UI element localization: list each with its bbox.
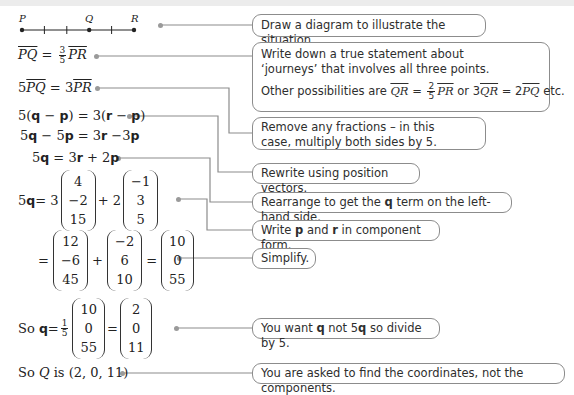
text: So bbox=[18, 321, 35, 336]
step-7: = 12 −6 45 + −2 6 10 = 10 0 55 bbox=[38, 230, 196, 291]
note-true-statement: Write down a true statement about ‘journ… bbox=[252, 42, 550, 112]
vector-p: p bbox=[131, 128, 140, 143]
fraction: 25 bbox=[427, 82, 435, 101]
vector-q: q bbox=[316, 321, 324, 335]
connector-4 bbox=[129, 116, 252, 172]
text: is (2, 0, 11) bbox=[50, 365, 129, 380]
note-alternatives: Other possibilities are QR = 25PR or 3QR… bbox=[261, 82, 541, 101]
text: = bbox=[38, 253, 49, 268]
vector-p: p bbox=[110, 150, 119, 165]
vector-q: q bbox=[31, 108, 40, 123]
note-component-form: Write p and r in component form. bbox=[252, 220, 440, 241]
text: Rearrange to get the bbox=[261, 195, 385, 209]
component: 12 bbox=[62, 232, 79, 251]
component: 3 bbox=[136, 191, 144, 210]
note-text: Write down a true statement about ‘journ… bbox=[261, 47, 511, 77]
vector-pr: PR bbox=[437, 84, 453, 98]
note-rearrange: Rearrange to get the q term on the left-… bbox=[252, 192, 512, 213]
component: 15 bbox=[70, 210, 87, 229]
component: −2 bbox=[69, 191, 88, 210]
text: You want bbox=[261, 321, 316, 335]
text: + 2 bbox=[83, 150, 110, 165]
vector-pq: PQ bbox=[18, 47, 37, 62]
note-simplify: Simplify. bbox=[252, 248, 316, 269]
point-r bbox=[132, 28, 136, 32]
text: = bbox=[107, 321, 118, 336]
text: + bbox=[92, 253, 103, 268]
component: 0 bbox=[173, 251, 181, 270]
vector-qr: QR bbox=[480, 84, 498, 98]
connector-6 bbox=[178, 199, 252, 230]
component: 55 bbox=[169, 270, 186, 289]
text: = bbox=[146, 253, 157, 268]
vector-p: p bbox=[131, 108, 140, 123]
vector-p: p bbox=[65, 128, 74, 143]
note-remove-fractions: Remove any fractions – in this case, mul… bbox=[252, 117, 486, 150]
text: 5 bbox=[18, 193, 26, 208]
denominator: 5 bbox=[428, 92, 434, 101]
component: −6 bbox=[61, 251, 80, 270]
vector-qr: QR bbox=[390, 84, 408, 98]
text: − bbox=[40, 108, 59, 123]
note-text: Simplify. bbox=[261, 251, 309, 265]
connector-dot-8 bbox=[174, 326, 179, 331]
label-p: P bbox=[19, 13, 26, 24]
text: = bbox=[48, 321, 59, 336]
column-vector: 12 −6 45 bbox=[53, 230, 88, 291]
vector-q: q bbox=[28, 128, 37, 143]
note-text: Remove any fractions – in this case, mul… bbox=[261, 120, 461, 150]
vector-q: q bbox=[26, 193, 35, 208]
component: −1 bbox=[131, 172, 150, 191]
label-r: R bbox=[131, 13, 139, 24]
column-vector: 4 −2 15 bbox=[61, 170, 96, 231]
connector-dot-6 bbox=[176, 197, 181, 202]
step-4: 5q − 5p = 3r −3p bbox=[20, 128, 139, 143]
component: 0 bbox=[85, 319, 93, 338]
step-3: 5(q − p) = 3(r − p) bbox=[18, 108, 145, 123]
text: ) bbox=[140, 108, 145, 123]
vector-q: q bbox=[385, 195, 393, 209]
fraction: 35 bbox=[59, 46, 67, 65]
component: 55 bbox=[80, 338, 97, 357]
text: or 3 bbox=[454, 84, 480, 98]
text: = 3 bbox=[74, 128, 101, 143]
component: 0 bbox=[132, 319, 140, 338]
text: = 3 bbox=[35, 193, 58, 208]
component: 10 bbox=[116, 270, 133, 289]
component: −2 bbox=[115, 232, 134, 251]
text: + 2 bbox=[98, 193, 121, 208]
text: ) = 3( bbox=[68, 108, 106, 123]
text: = 2 bbox=[498, 84, 522, 98]
step-2: 5PQ = 3PR bbox=[18, 80, 92, 95]
text: etc. bbox=[540, 84, 565, 98]
column-vector: 2 0 11 bbox=[120, 298, 153, 359]
denominator: 5 bbox=[60, 56, 66, 65]
point-p bbox=[20, 28, 24, 32]
text: not 5 bbox=[325, 321, 358, 335]
column-vector: −1 3 5 bbox=[123, 170, 158, 231]
column-vector: −2 6 10 bbox=[107, 230, 142, 291]
vector-q: q bbox=[39, 321, 48, 336]
vector-q: q bbox=[40, 150, 49, 165]
equals: = bbox=[42, 47, 53, 62]
fraction: 15 bbox=[61, 319, 69, 338]
component: 45 bbox=[62, 270, 79, 289]
point-q: Q bbox=[39, 365, 50, 380]
component: 10 bbox=[80, 300, 97, 319]
text: Write bbox=[261, 223, 295, 237]
text: So bbox=[18, 365, 39, 380]
text: 5( bbox=[18, 108, 31, 123]
note-divide: You want q not 5q so divide by 5. bbox=[252, 318, 440, 339]
component: 5 bbox=[136, 210, 144, 229]
component: 4 bbox=[74, 172, 82, 191]
text: − bbox=[112, 108, 131, 123]
step-5: 5q = 3r + 2p bbox=[32, 150, 119, 165]
note-coordinates: You are asked to find the coordinates, n… bbox=[252, 363, 565, 384]
text: − 5 bbox=[37, 128, 64, 143]
vector-pr: PR bbox=[68, 47, 87, 62]
point-q bbox=[87, 28, 91, 32]
component: 11 bbox=[128, 338, 145, 357]
step-8: So q = 15 10 0 55 = 2 0 11 bbox=[18, 298, 154, 359]
connector-dot-2 bbox=[94, 54, 99, 59]
text: = 3 bbox=[49, 150, 76, 165]
